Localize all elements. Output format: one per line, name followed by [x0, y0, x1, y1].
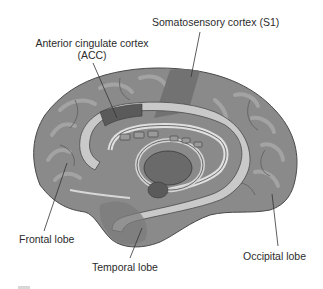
label-acc-line1: Anterior cingulate cortex	[22, 37, 162, 49]
label-somatosensory-cortex: Somatosensory cortex (S1)	[152, 16, 279, 28]
label-acc-line2: (ACC)	[22, 49, 162, 61]
label-occipital-lobe: Occipital lobe	[243, 250, 306, 262]
brain-diagram: Somatosensory cortex (S1) Anterior cingu…	[0, 0, 323, 289]
label-anterior-cingulate-cortex: Anterior cingulate cortex (ACC)	[22, 37, 162, 61]
thalamus	[144, 151, 192, 185]
label-frontal-lobe: Frontal lobe	[19, 233, 74, 245]
label-temporal-lobe: Temporal lobe	[92, 261, 158, 273]
